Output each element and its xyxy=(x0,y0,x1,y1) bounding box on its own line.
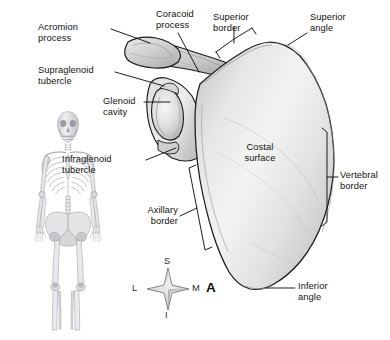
label-superior-angle: Superior angle xyxy=(310,12,346,34)
compass-label-inferior: I xyxy=(165,310,168,320)
label-superior-border: Superior border xyxy=(213,12,249,34)
label-coracoid-process: Coracoid process xyxy=(156,9,194,31)
scapula-illustration xyxy=(125,37,334,289)
skeleton-inset xyxy=(35,112,101,331)
leader-superior-angle xyxy=(288,33,307,45)
compass-label-superior: S xyxy=(164,256,170,266)
label-supraglenoid-tubercle: Supraglenoid tubercle xyxy=(38,65,94,87)
label-vertebral-border: Vertebral border xyxy=(340,170,378,192)
label-axillary-border: Axillary border xyxy=(104,205,178,227)
acromion-process-shape xyxy=(125,37,181,68)
label-inferior-angle: Inferior angle xyxy=(298,281,328,303)
label-infraglenoid-tubercle: Infraglenoid tubercle xyxy=(62,154,112,176)
compass-label-medial: M xyxy=(192,283,200,293)
label-acromion-process: Acromion process xyxy=(38,22,78,44)
skeleton-pelvis xyxy=(45,212,90,246)
compass-label-lateral: L xyxy=(132,283,137,293)
label-costal-surface: Costal surface xyxy=(232,142,288,164)
panel-letter-a: A xyxy=(206,280,216,295)
scapula-figure: Acromion process Supraglenoid tubercle G… xyxy=(0,0,390,340)
label-glenoid-cavity: Glenoid cavity xyxy=(103,96,136,118)
orientation-compass-rose xyxy=(147,268,189,310)
skeleton-legs xyxy=(51,240,85,330)
skeleton-skull xyxy=(58,112,79,143)
scapula-blade-shape xyxy=(195,42,334,289)
